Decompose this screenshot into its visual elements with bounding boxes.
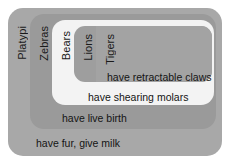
- label-have-live-birth: have live birth: [62, 113, 127, 124]
- label-have-retractable-claws: have retractable claws: [107, 72, 211, 83]
- label-tigers: Tigers: [105, 34, 116, 65]
- label-platypi: Platypi: [17, 26, 28, 60]
- nested-set-diagram: Platypi Zebras Bears Lions Tigers have r…: [0, 0, 230, 167]
- label-have-shearing-molars: have shearing molars: [88, 92, 188, 103]
- label-lions: Lions: [83, 34, 94, 61]
- label-have-fur-give-milk: have fur, give milk: [36, 138, 120, 149]
- label-bears: Bears: [61, 31, 72, 60]
- label-zebras: Zebras: [39, 26, 50, 61]
